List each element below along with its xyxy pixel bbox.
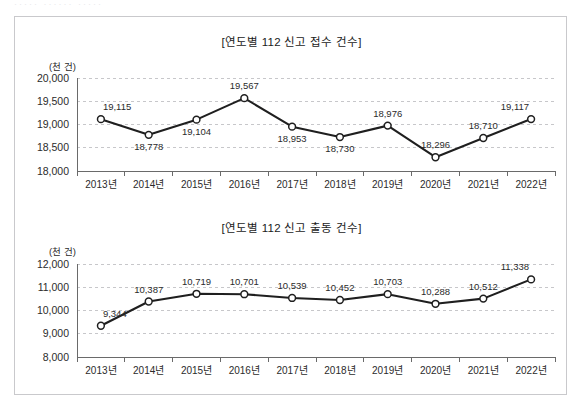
data-point-label: 9,344 bbox=[103, 308, 127, 319]
data-point-label: 10,719 bbox=[182, 276, 211, 287]
line-chart-received: 18,00018,50019,00019,50020,0002013년2014년… bbox=[15, 17, 568, 209]
data-point-marker[interactable] bbox=[480, 295, 487, 302]
x-tick-label: 2017년 bbox=[276, 179, 307, 190]
data-point-marker[interactable] bbox=[528, 276, 535, 283]
x-tick-label: 2019년 bbox=[372, 365, 403, 376]
x-tick-label: 2022년 bbox=[515, 179, 546, 190]
scan-top-artifact: ····· ······ ····· bbox=[14, 0, 194, 9]
data-point-label: 18,953 bbox=[278, 133, 307, 144]
data-point-marker[interactable] bbox=[193, 116, 200, 123]
x-tick-label: 2022년 bbox=[515, 365, 546, 376]
data-point-marker[interactable] bbox=[432, 154, 439, 161]
data-point-marker[interactable] bbox=[528, 116, 535, 123]
data-point-label: 10,539 bbox=[278, 280, 307, 291]
data-point-label: 19,567 bbox=[230, 80, 259, 91]
data-point-label: 10,452 bbox=[325, 282, 354, 293]
y-tick-label: 11,000 bbox=[38, 281, 69, 293]
data-point-label: 10,288 bbox=[421, 286, 450, 297]
data-point-marker[interactable] bbox=[145, 298, 152, 305]
x-tick-label: 2014년 bbox=[133, 179, 164, 190]
data-point-label: 18,296 bbox=[421, 139, 450, 150]
x-tick-label: 2018년 bbox=[324, 365, 355, 376]
data-point-label: 19,117 bbox=[501, 101, 529, 112]
figure-root: ····· ······ ····· [연도별 112 신고 접수 건수] (천… bbox=[0, 0, 583, 406]
data-point-label: 10,512 bbox=[469, 281, 498, 292]
data-point-marker[interactable] bbox=[193, 290, 200, 297]
x-tick-label: 2013년 bbox=[85, 365, 116, 376]
x-tick-label: 2015년 bbox=[181, 179, 212, 190]
x-tick-label: 2021년 bbox=[468, 179, 499, 190]
y-tick-label: 19,500 bbox=[37, 95, 69, 107]
y-tick-label: 19,000 bbox=[37, 118, 69, 130]
x-tick-label: 2021년 bbox=[468, 365, 499, 376]
y-tick-label: 8,000 bbox=[43, 351, 69, 363]
data-point-label: 10,703 bbox=[373, 276, 402, 287]
data-point-marker[interactable] bbox=[432, 300, 439, 307]
x-tick-label: 2013년 bbox=[85, 179, 116, 190]
figure-frame: [연도별 112 신고 접수 건수] (천 건) 18,00018,50019,… bbox=[14, 16, 567, 395]
data-point-marker[interactable] bbox=[337, 134, 344, 141]
data-point-label: 18,778 bbox=[134, 141, 163, 152]
data-point-marker[interactable] bbox=[384, 122, 391, 129]
y-tick-label: 20,000 bbox=[37, 72, 69, 84]
x-tick-label: 2020년 bbox=[420, 179, 451, 190]
x-tick-label: 2020년 bbox=[420, 365, 451, 376]
data-point-marker[interactable] bbox=[98, 322, 105, 329]
x-tick-label: 2014년 bbox=[133, 365, 164, 376]
data-point-label: 18,710 bbox=[469, 120, 498, 131]
x-tick-label: 2016년 bbox=[229, 179, 260, 190]
x-tick-label: 2019년 bbox=[372, 179, 403, 190]
y-tick-label: 18,000 bbox=[37, 165, 69, 177]
data-point-marker[interactable] bbox=[98, 116, 105, 123]
data-point-label: 18,976 bbox=[373, 108, 402, 119]
y-tick-label: 10,000 bbox=[37, 304, 69, 316]
y-tick-label: 12,000 bbox=[37, 258, 69, 270]
data-point-label: 11,338 bbox=[501, 261, 529, 272]
data-point-label: 10,387 bbox=[134, 284, 163, 295]
data-point-marker[interactable] bbox=[241, 291, 248, 298]
data-point-label: 19,115 bbox=[103, 101, 131, 112]
data-point-marker[interactable] bbox=[289, 295, 296, 302]
data-point-marker[interactable] bbox=[337, 297, 344, 304]
series-line bbox=[101, 279, 531, 325]
x-tick-label: 2015년 bbox=[181, 365, 212, 376]
data-point-marker[interactable] bbox=[384, 291, 391, 298]
y-tick-label: 18,500 bbox=[37, 141, 69, 153]
data-point-label: 10,701 bbox=[230, 276, 259, 287]
x-tick-label: 2017년 bbox=[276, 365, 307, 376]
y-tick-label: 9,000 bbox=[43, 327, 69, 339]
chart-panel-received: [연도별 112 신고 접수 건수] (천 건) 18,00018,50019,… bbox=[15, 17, 568, 209]
x-tick-label: 2016년 bbox=[229, 365, 260, 376]
chart-panel-dispatched: [연도별 112 신고 출동 건수] (천 건) 8,0009,00010,00… bbox=[15, 209, 568, 395]
data-point-marker[interactable] bbox=[289, 123, 296, 130]
data-point-marker[interactable] bbox=[480, 135, 487, 142]
data-point-label: 19,104 bbox=[182, 126, 211, 137]
line-chart-dispatched: 8,0009,00010,00011,00012,0002013년2014년20… bbox=[15, 209, 568, 395]
x-tick-label: 2018년 bbox=[324, 179, 355, 190]
data-point-label: 18,730 bbox=[325, 143, 354, 154]
series-line bbox=[101, 98, 531, 157]
data-point-marker[interactable] bbox=[241, 95, 248, 102]
data-point-marker[interactable] bbox=[145, 131, 152, 138]
